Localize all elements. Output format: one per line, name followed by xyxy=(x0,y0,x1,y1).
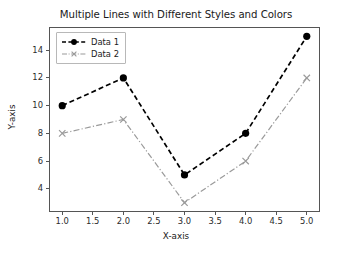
x-tick-mark xyxy=(62,211,63,215)
x-tick-mark xyxy=(153,211,154,215)
legend: Data 1 Data 2 xyxy=(56,32,126,64)
x-tick-label-4.5: 4.5 xyxy=(261,216,291,226)
x-tick-label-1.0: 1.0 xyxy=(47,216,77,226)
legend-swatch-data-1 xyxy=(61,36,87,48)
legend-item-data-1: Data 1 xyxy=(61,36,119,48)
legend-label-data-2: Data 2 xyxy=(91,50,119,58)
x-axis-label: X-axis xyxy=(0,231,352,241)
x-tick-label-3.5: 3.5 xyxy=(200,216,230,226)
x-tick-mark xyxy=(184,211,185,215)
x-tick-mark xyxy=(92,211,93,215)
x-tick-mark xyxy=(215,211,216,215)
x-tick-label-3.0: 3.0 xyxy=(170,216,200,226)
x-tick-label-1.5: 1.5 xyxy=(78,216,108,226)
legend-label-data-1: Data 1 xyxy=(91,38,119,46)
x-tick-label-2.0: 2.0 xyxy=(108,216,138,226)
x-tick-mark xyxy=(306,211,307,215)
x-tick-label-4.0: 4.0 xyxy=(231,216,261,226)
x-tick-mark xyxy=(245,211,246,215)
legend-item-data-2: Data 2 xyxy=(61,48,119,60)
matplotlib-figure: Multiple Lines with Different Styles and… xyxy=(0,0,352,256)
x-axis-ticks: 1.01.52.02.53.03.54.04.55.0 xyxy=(0,0,352,256)
x-tick-label-5.0: 5.0 xyxy=(292,216,322,226)
x-tick-label-2.5: 2.5 xyxy=(139,216,169,226)
x-tick-mark xyxy=(123,211,124,215)
x-tick-mark xyxy=(276,211,277,215)
legend-swatch-data-2 xyxy=(61,48,87,60)
y-axis-label: Y-axis xyxy=(7,82,17,152)
